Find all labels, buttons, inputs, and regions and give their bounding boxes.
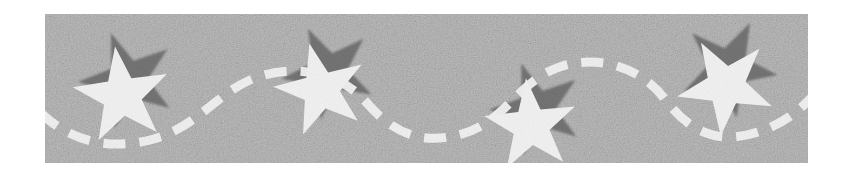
band-grain-overlay: [45, 14, 808, 163]
banner-svg: [0, 0, 851, 183]
banner-artwork: [0, 0, 851, 183]
